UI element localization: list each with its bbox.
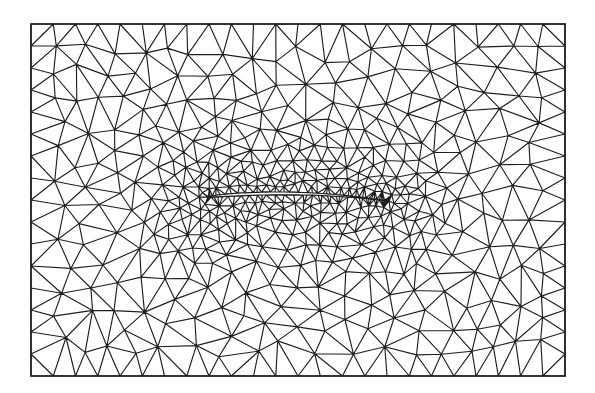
mesh-edges	[31, 24, 565, 376]
airfoil-mesh-diagram	[0, 0, 595, 393]
mesh-triangle-edges	[31, 24, 565, 376]
